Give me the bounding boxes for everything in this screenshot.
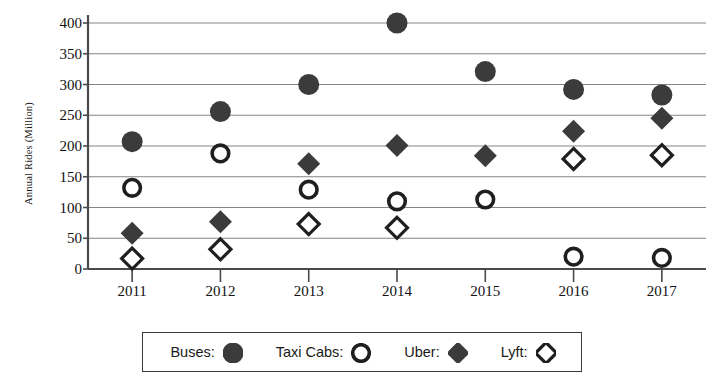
data-point [298,214,319,235]
open-diamond-icon [536,343,554,361]
data-point [389,193,406,210]
data-point [651,145,672,166]
legend-entry[interactable]: Lyft: [501,343,554,361]
data-point [563,148,584,169]
chart-legend: Buses:Taxi Cabs:Uber:Lyft: [142,332,582,372]
legend-label: Buses: [170,344,214,360]
data-point [654,250,671,267]
data-point [565,248,582,265]
chart-figure: Annual Rides (Million) 05010015020025030… [0,0,718,392]
data-point [386,134,409,157]
data-point [297,152,320,175]
data-point [209,210,232,233]
data-point [387,217,408,238]
data-point [298,74,319,95]
legend-marker-shape [448,343,468,363]
data-point [477,191,494,208]
legend-label: Uber: [404,344,439,360]
data-point [300,181,317,198]
data-point [210,101,231,122]
series-buses [122,13,673,153]
data-point [562,120,585,143]
data-point [563,79,584,100]
data-point [650,107,673,130]
data-point [121,222,144,245]
data-point [122,131,143,152]
legend-marker-shape [536,343,556,363]
filled-circle-icon [223,343,241,361]
legend-entry[interactable]: Buses: [170,343,240,361]
x-tick-label: 2011 [117,283,146,300]
x-tick-label: 2015 [470,283,500,300]
x-tick-label: 2012 [205,283,235,300]
legend-marker-shape [223,343,243,363]
legend-entry[interactable]: Taxi Cabs: [276,343,370,361]
x-tick-label: 2016 [559,283,589,300]
data-point [387,13,408,34]
data-point [212,145,229,162]
data-point [124,180,141,197]
x-tick-marks [132,269,662,282]
data-point [475,61,496,82]
x-tick-label: 2013 [294,283,324,300]
open-circle-icon [351,343,369,361]
data-point [651,84,672,105]
legend-entry[interactable]: Uber: [404,343,465,361]
x-tick-label: 2017 [647,283,677,300]
x-axis-tick-labels: 2011201220132014201520162017 [0,283,718,305]
legend-label: Lyft: [501,344,528,360]
data-point [210,239,231,260]
legend-label: Taxi Cabs: [276,344,344,360]
data-point [122,248,143,269]
filled-diamond-icon [448,343,466,361]
series-taxi-cabs [124,145,670,266]
x-tick-label: 2014 [382,283,412,300]
data-point [474,144,497,167]
legend-marker-shape [353,345,370,362]
